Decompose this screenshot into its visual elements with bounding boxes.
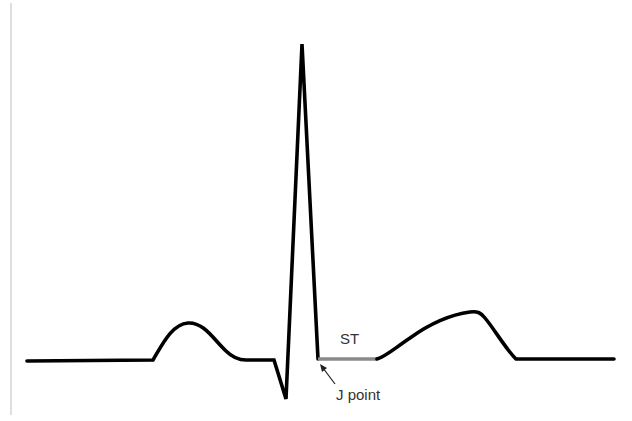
st-label: ST: [340, 330, 359, 347]
j-point-arrow: [320, 364, 335, 384]
j-point-label: J point: [336, 386, 381, 403]
t-wave: [377, 312, 614, 359]
ecg-diagram: ST J point: [0, 0, 632, 421]
ecg-trace: [27, 44, 318, 399]
